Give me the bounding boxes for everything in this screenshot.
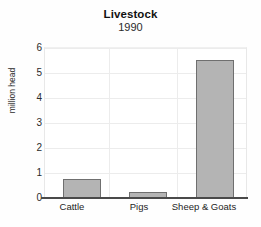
y-tick-2: 2 <box>6 143 42 153</box>
y-tick-6: 6 <box>6 43 42 53</box>
y-tick-4: 4 <box>6 93 42 103</box>
plot-area <box>44 47 247 198</box>
y-tick-3: 3 <box>6 118 42 128</box>
x-tick-label-sheep-and-goats: Sheep & Goats <box>156 201 252 212</box>
x-tick-label-cattle: Cattle <box>36 201 108 212</box>
y-axis-label: million head <box>8 56 17 126</box>
bar-chart: Livestock 1990 million head 6 5 4 3 2 1 … <box>0 0 261 227</box>
gridline-x-2 <box>177 48 178 198</box>
x-axis-line <box>41 197 248 199</box>
y-tick-5: 5 <box>6 68 42 78</box>
bar-sheep-and-goats <box>196 60 234 198</box>
y-axis: million head 6 5 4 3 2 1 0 <box>0 0 42 227</box>
y-tick-1: 1 <box>6 168 42 178</box>
bar-cattle <box>63 179 101 198</box>
gridline-x-1 <box>109 48 110 198</box>
gridline-y-6 <box>45 48 246 49</box>
